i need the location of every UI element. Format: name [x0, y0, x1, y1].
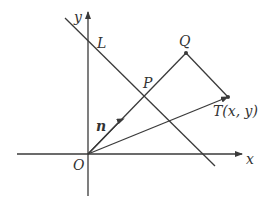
point-T-label: T(x, y) [213, 103, 258, 119]
point-P-label: P [142, 75, 153, 91]
point-Q-label: Q [179, 33, 191, 49]
point-Q-dot [184, 51, 188, 55]
segment-QT [186, 53, 228, 97]
origin-label: O [73, 157, 85, 173]
line-L-label: L [96, 35, 106, 51]
point-T-dot [226, 95, 230, 99]
y-axis-label: y [73, 9, 83, 25]
x-axis-label: x [246, 151, 254, 167]
geometry-diagram: y x O L P Q T(x, y) n [0, 0, 268, 206]
segment-OT [88, 97, 228, 154]
vector-n-label: n [96, 118, 106, 134]
